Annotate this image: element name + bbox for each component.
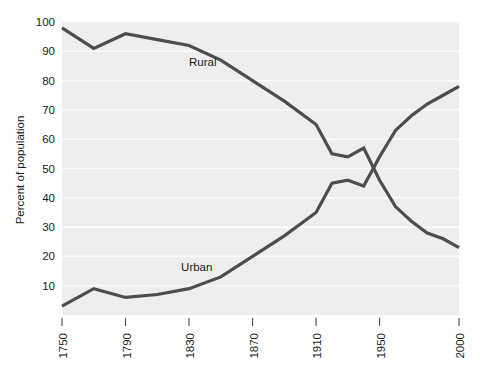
y-axis-tick-label: 90 [42, 45, 55, 57]
y-axis-tick-label: 20 [42, 250, 55, 262]
chart-container: 102030405060708090100 175017901830187019… [0, 0, 480, 370]
series-label-urban: Urban [181, 261, 212, 273]
series-label-rural: Rural [189, 56, 216, 68]
y-axis-tick-label: 50 [42, 163, 55, 175]
y-axis-tick-label: 40 [42, 192, 55, 204]
line-chart: 102030405060708090100 175017901830187019… [0, 0, 480, 370]
y-axis-tick-label: 30 [42, 221, 55, 233]
y-axis-tick-label: 100 [36, 16, 55, 28]
x-axis-tick-label: 2000 [454, 333, 466, 359]
y-axis-tick-label: 10 [42, 280, 55, 292]
y-axis-title: Percent of population [14, 116, 26, 225]
x-axis-tick-label: 1830 [184, 333, 196, 359]
x-axis-tick-label: 1950 [375, 333, 387, 359]
x-axis-tick-label: 1910 [311, 333, 323, 359]
x-axis-tick-label: 1790 [121, 333, 133, 359]
y-axis-tick-label: 60 [42, 133, 55, 145]
y-axis-tick-label: 70 [42, 104, 55, 116]
x-axis-tick-label: 1870 [248, 333, 260, 359]
y-axis-tick-label: 80 [42, 75, 55, 87]
x-axis-tick-label: 1750 [57, 333, 69, 359]
